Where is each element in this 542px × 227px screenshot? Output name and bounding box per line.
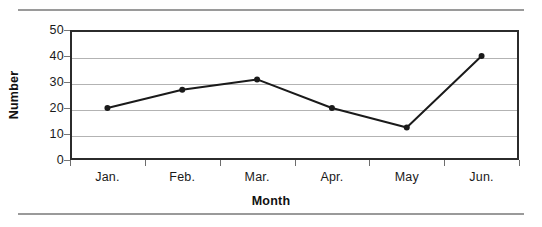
x-axis-title: Month: [0, 194, 542, 208]
x-tick-label: Apr.: [320, 170, 343, 184]
x-tick-label: Jun.: [469, 170, 493, 184]
x-tick-label: Jan.: [95, 170, 119, 184]
x-tick-mark: [444, 160, 445, 166]
x-tick-mark: [519, 160, 520, 166]
x-tick-mark: [145, 160, 146, 166]
y-tick-label: 0: [24, 153, 64, 167]
series-line-number: [107, 56, 481, 128]
x-tick-label: Mar.: [245, 170, 270, 184]
y-tick-label: 40: [24, 49, 64, 63]
data-point-marker: [479, 53, 485, 59]
line-chart-figure: Number 01020304050 Jan.Feb.Mar.Apr.MayJu…: [0, 14, 542, 210]
x-tick-mark: [369, 160, 370, 166]
x-tick-label: May: [395, 170, 419, 184]
data-point-marker: [329, 105, 335, 111]
bottom-divider-rule: [18, 213, 524, 215]
y-axis-tick-labels: 01020304050: [16, 30, 64, 160]
y-tick-label: 10: [24, 127, 64, 141]
data-series-layer: [70, 30, 519, 160]
data-point-marker: [179, 87, 185, 93]
x-tick-mark: [295, 160, 296, 166]
x-tick-mark: [220, 160, 221, 166]
data-point-marker: [404, 125, 410, 131]
y-tick-label: 30: [24, 75, 64, 89]
y-tick-label: 50: [24, 23, 64, 37]
x-tick-mark: [70, 160, 71, 166]
data-point-marker: [104, 105, 110, 111]
y-tick-label: 20: [24, 101, 64, 115]
x-tick-label: Feb.: [169, 170, 195, 184]
series-markers-number: [104, 53, 484, 131]
chart-page: Number 01020304050 Jan.Feb.Mar.Apr.MayJu…: [0, 0, 542, 227]
top-divider-rule: [18, 9, 524, 11]
data-point-marker: [254, 76, 260, 82]
